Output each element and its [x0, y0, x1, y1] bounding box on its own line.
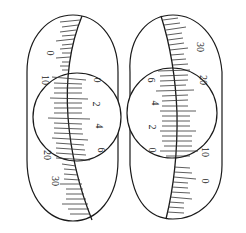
left-thimble-label-10: 10 — [40, 75, 50, 85]
left-sleeve-label-0: 0 — [92, 78, 102, 83]
right-micrometer — [127, 15, 222, 219]
right-sleeve-label-6: 6 — [146, 78, 156, 83]
right-thimble-label-10: 10 — [200, 147, 210, 157]
left-micrometer — [27, 15, 121, 221]
right-sleeve-label-4: 4 — [150, 101, 160, 106]
left-thimble-label-20: 20 — [42, 150, 52, 160]
micrometer-diagram: 0 10 20 30 0 2 4 6 30 20 10 0 6 4 2 0 — [0, 0, 246, 233]
right-thimble-label-20: 20 — [198, 75, 208, 85]
left-thimble-label-30: 30 — [50, 176, 60, 186]
right-sleeve-label-2: 2 — [147, 125, 157, 130]
diagram-drawing — [0, 0, 246, 233]
right-sleeve-label-0: 0 — [147, 148, 157, 153]
left-sleeve-label-4: 4 — [94, 124, 104, 129]
left-thimble-label-0: 0 — [45, 51, 55, 56]
left-sleeve-label-2: 2 — [91, 102, 101, 107]
left-circle-outline — [33, 73, 121, 161]
right-thimble-label-30: 30 — [195, 42, 205, 52]
right-thimble-label-0: 0 — [200, 179, 210, 184]
left-sleeve-label-6: 6 — [96, 148, 106, 153]
